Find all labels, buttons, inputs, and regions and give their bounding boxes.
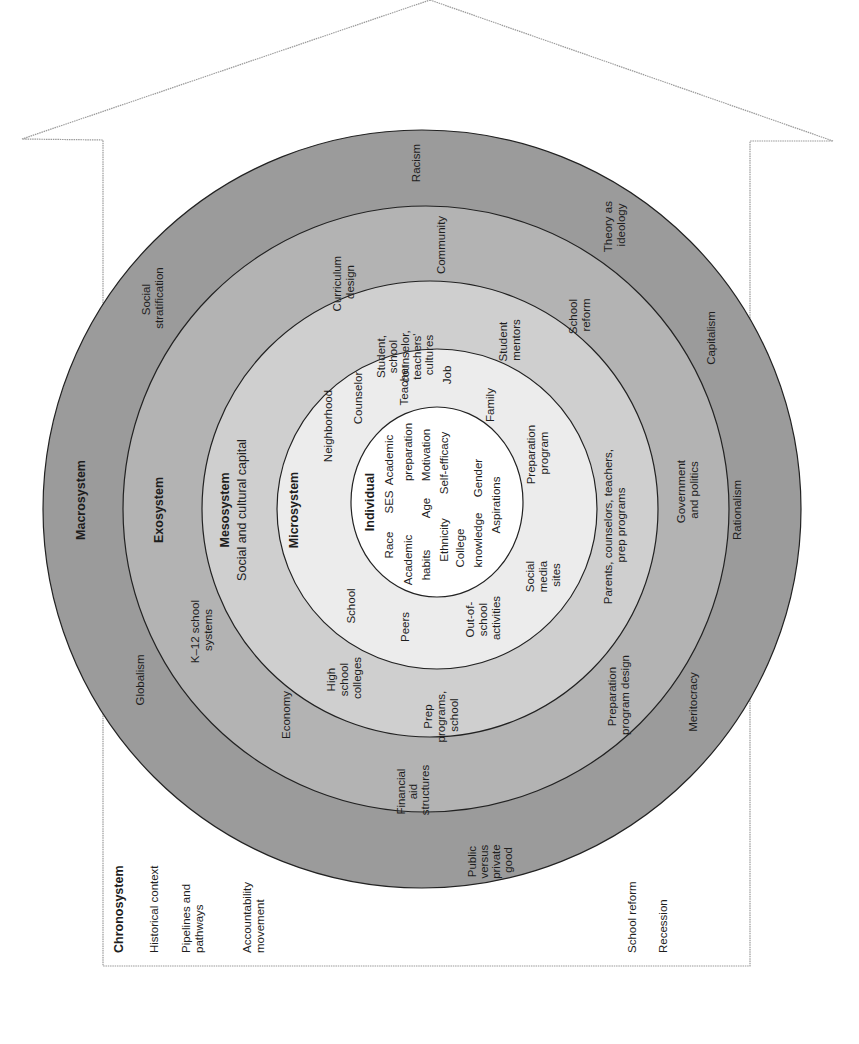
individual-aspirations: Aspirations — [490, 476, 502, 533]
individual-self-efficacy: Self-efficacy — [438, 432, 450, 495]
individual-knowledge: knowledge — [472, 513, 484, 568]
individual-motivation: Motivation — [420, 429, 432, 481]
individual-college: College — [454, 529, 466, 568]
micro-teacher: Teacher — [398, 364, 410, 405]
microsystem-title: Microsystem — [287, 472, 301, 548]
individual-preparation: preparation — [402, 423, 414, 481]
exo-government-and-politics: Government and politics — [675, 457, 700, 523]
exosystem-title: Exosystem — [152, 477, 166, 543]
micro-out-of-school-activities: Out-of- school activities — [464, 596, 502, 640]
exo-school-reform: School reform — [567, 296, 592, 334]
macro-rationalism: Rationalism — [731, 480, 743, 540]
individual-academic-2: Academic — [402, 535, 414, 586]
micro-neighborhood: Neighborhood — [322, 390, 334, 462]
mesosystem-subtitle: Social and cultural capital — [235, 439, 249, 581]
individual-ethnicity: Ethnicity — [438, 518, 450, 562]
chrono-school-reform: School reform — [626, 881, 638, 953]
exo-community: Community — [435, 216, 447, 274]
macro-theory-as-ideology: Theory as ideology — [602, 198, 627, 252]
individual-title: Individual — [363, 473, 377, 531]
macro-globalism: Globalism — [134, 654, 146, 705]
meso-student-mentors: Student mentors — [497, 319, 522, 362]
macro-capitalism: Capitalism — [705, 311, 717, 365]
macrosystem-title: Macrosystem — [74, 460, 88, 540]
individual-habits: habits — [420, 549, 432, 580]
micro-job: Job — [441, 366, 453, 385]
individual-academic-1: Academic — [383, 435, 395, 486]
micro-counselor: Counselor — [352, 372, 364, 425]
individual-gender: Gender — [472, 459, 484, 498]
micro-peers: Peers — [399, 612, 411, 642]
micro-family: Family — [484, 388, 496, 422]
macro-racism: Racism — [410, 144, 422, 182]
micro-school: School — [345, 588, 357, 623]
individual-race: Race — [383, 532, 395, 559]
chrono-recession: Recession — [657, 899, 669, 953]
ecological-systems-diagram: Macrosystem Racism Social stratification… — [0, 0, 859, 1044]
chrono-historical-context: Historical context — [148, 865, 160, 953]
exo-preparation-program-design: Preparation program design — [606, 655, 631, 735]
individual-age: Age — [420, 498, 432, 518]
mesosystem-title: Mesosystem — [218, 472, 232, 547]
individual-ses: SES — [383, 490, 395, 513]
exo-economy: Economy — [280, 691, 292, 739]
macro-meritocracy: Meritocracy — [687, 672, 699, 732]
chronosystem-title: Chronosystem — [112, 865, 126, 953]
